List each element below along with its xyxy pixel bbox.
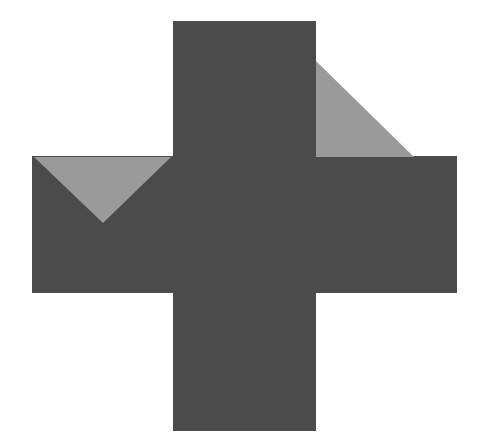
cross-diagram — [0, 0, 480, 448]
right-wedge — [316, 61, 414, 157]
